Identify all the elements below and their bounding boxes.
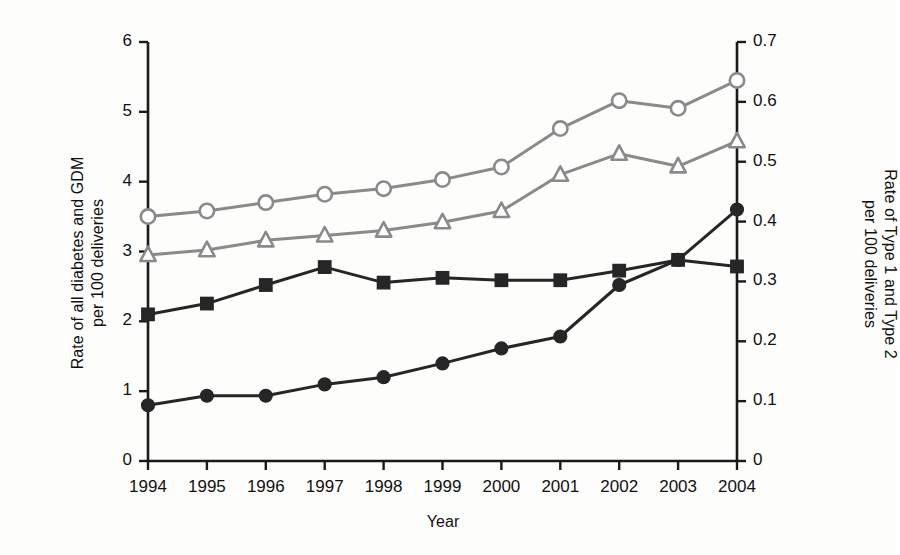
data-point-filled-circle xyxy=(436,357,449,370)
data-point-open-circle xyxy=(671,101,685,115)
data-point-filled-circle xyxy=(672,253,685,266)
x-axis-tick-label: 2001 xyxy=(530,477,590,497)
series-type-1-filled-circle xyxy=(142,203,744,412)
data-point-open-circle xyxy=(376,181,390,195)
data-point-filled-circle xyxy=(142,399,155,412)
y-axis-left-tick-label: 5 xyxy=(92,101,132,121)
x-axis-tick-label: 1998 xyxy=(354,477,414,497)
y-axis-right-tick-label: 0.5 xyxy=(753,151,803,171)
data-point-filled-circle xyxy=(318,378,331,391)
data-point-open-triangle xyxy=(612,145,627,160)
data-point-open-circle xyxy=(259,195,273,209)
data-point-open-circle xyxy=(318,187,332,201)
data-point-filled-square xyxy=(731,260,743,272)
data-point-filled-square xyxy=(554,274,566,286)
data-point-open-circle xyxy=(494,160,508,174)
y-axis-left-tick-label: 3 xyxy=(92,241,132,261)
y-axis-right-tick-label: 0.2 xyxy=(753,330,803,350)
series-layer xyxy=(140,73,744,412)
y-axis-right-tick-label: 0.6 xyxy=(753,91,803,111)
data-point-filled-circle xyxy=(259,389,272,402)
y-axis-left-tick-label: 0 xyxy=(92,450,132,470)
data-point-open-circle xyxy=(553,121,567,135)
y-axis-left-tick-label: 2 xyxy=(92,310,132,330)
data-point-filled-square xyxy=(495,274,507,286)
series-type-2-filled-square xyxy=(142,254,743,321)
data-point-open-circle xyxy=(612,93,626,107)
data-point-filled-circle xyxy=(554,330,567,343)
x-axis-tick-label: 2004 xyxy=(707,477,767,497)
data-point-open-circle xyxy=(200,204,214,218)
series-all-diabetes-open-circle xyxy=(141,73,744,224)
series-gdm-open-triangle xyxy=(140,133,744,261)
x-axis-tick-label: 1996 xyxy=(236,477,296,497)
data-point-filled-circle xyxy=(377,371,390,384)
data-point-open-triangle xyxy=(494,203,509,217)
data-point-open-circle xyxy=(141,209,155,223)
x-axis-tick-label: 1994 xyxy=(118,477,178,497)
y-axis-right-tick-label: 0 xyxy=(753,450,803,470)
y-axis-right-tick-label: 0.3 xyxy=(753,270,803,290)
data-point-filled-square xyxy=(377,276,389,288)
y-axis-right-tick-label: 0.7 xyxy=(753,31,803,51)
data-point-filled-square xyxy=(436,272,448,284)
y-axis-left-tick-label: 4 xyxy=(92,171,132,191)
y-axis-left-tick-label: 1 xyxy=(92,380,132,400)
data-point-filled-circle xyxy=(731,203,744,216)
y-axis-right-tick-label: 0.4 xyxy=(753,211,803,231)
data-point-filled-square xyxy=(201,297,213,309)
y-axis-left-tick-label: 6 xyxy=(92,31,132,51)
x-axis-tick-label: 2000 xyxy=(471,477,531,497)
data-point-open-triangle xyxy=(729,133,744,147)
data-point-filled-square xyxy=(260,279,272,291)
x-axis-tick-label: 1995 xyxy=(177,477,237,497)
x-axis-tick-label: 1997 xyxy=(295,477,355,497)
x-axis-tick-label: 2002 xyxy=(589,477,649,497)
data-point-filled-circle xyxy=(201,389,214,402)
data-point-filled-square xyxy=(142,308,154,320)
x-axis-tick-label: 1999 xyxy=(413,477,473,497)
data-point-filled-square xyxy=(613,264,625,276)
x-axis-tick-label: 2003 xyxy=(648,477,708,497)
data-point-filled-circle xyxy=(495,342,508,355)
data-point-open-circle xyxy=(435,172,449,186)
data-point-filled-square xyxy=(319,261,331,273)
y-axis-right-tick-label: 0.1 xyxy=(753,390,803,410)
data-point-open-circle xyxy=(730,73,744,87)
data-point-filled-circle xyxy=(613,279,626,292)
